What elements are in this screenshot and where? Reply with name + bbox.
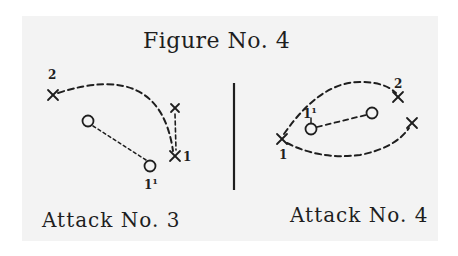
player-x-icon [171,104,179,112]
attack-4-diagram [277,82,417,156]
label-player-1-prime: 11 [144,176,158,192]
run-path [93,126,146,160]
attack-3-diagram [48,84,180,171]
player-x-2-icon [48,90,58,100]
pass-path-top-arc [284,82,396,134]
label-player-1: 1 [279,148,287,162]
pass-path-bottom-arc [287,128,409,156]
player-o-1p-icon [145,161,156,172]
player-x-1-icon [277,134,287,144]
label-player-2: 2 [48,68,56,82]
player-o-icon [83,116,94,127]
caption-attack-3: Attack No. 3 [42,208,180,232]
player-o-1p-icon [306,124,317,135]
player-x-2-icon [393,92,403,102]
run-path [317,115,366,127]
label-player-1-prime: 11 [303,105,317,121]
player-x-icon [407,118,417,128]
label-player-2: 2 [394,77,402,91]
pass-path-short [175,114,176,150]
caption-attack-4: Attack No. 4 [290,203,428,227]
player-x-1-icon [170,151,180,161]
label-player-1: 1 [183,150,191,164]
player-o-icon [367,108,378,119]
